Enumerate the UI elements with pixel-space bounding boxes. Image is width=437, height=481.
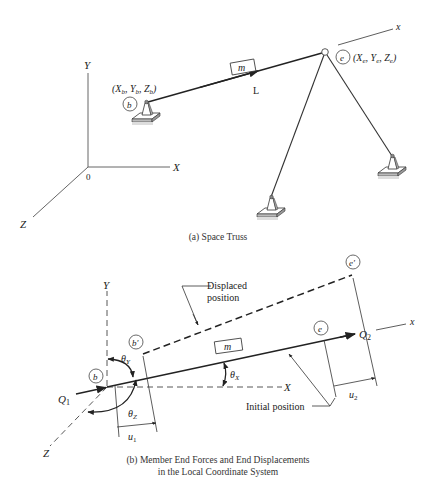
svg-text:m: m [238, 62, 245, 73]
local-x-axis-a [338, 29, 393, 45]
joint-b-label: b [127, 100, 132, 110]
q1-label: Q1 [58, 393, 70, 407]
u2-dimension-arrow [334, 378, 375, 386]
support-left [257, 195, 285, 220]
joint-e-prime-label: e′ [349, 258, 356, 268]
caption-b-line1: (b) Member End Forces and End Displaceme… [126, 455, 309, 466]
u2-ref-line-initial [324, 340, 336, 397]
z-axis-label-b: Z [43, 447, 50, 459]
displaced-annotation-line2: position [207, 292, 239, 303]
local-x-axis-label-a: x [395, 21, 401, 32]
support-right [378, 154, 406, 179]
joint-b-coords: (Xb, Yb, Zb) [112, 83, 157, 96]
theta-z-label: θZ [128, 408, 137, 421]
u1-ref-line-displaced [143, 356, 157, 432]
member-displaced-position [143, 275, 352, 354]
member-label-box-b: m [214, 338, 242, 354]
theta-x-label: θX [230, 369, 240, 382]
initial-leader-to-u2 [330, 398, 335, 406]
caption-a: (a) Space Truss [189, 232, 248, 243]
space-truss-figure: Y X Z 0 m L x e (Xe, Ye, Ze) b (Xb, Yb, … [0, 0, 437, 481]
joint-e-label: e [340, 53, 344, 63]
origin-label: 0 [86, 172, 91, 182]
joint-b-prime-label: b′ [132, 338, 140, 348]
y-axis-label-b: Y [103, 279, 111, 291]
figure-b-local-coordinates: Y X Z x m b b′ e e′ Q1 Q2 u1 [43, 255, 415, 477]
svg-text:m: m [224, 341, 231, 352]
member-direction-arrow [200, 71, 258, 87]
initial-annotation: Initial position [246, 401, 305, 412]
q2-arrow [340, 334, 355, 337]
joint-e-label-b: e [318, 324, 322, 334]
local-x-axis-b [376, 324, 406, 330]
figure-a-space-truss: Y X Z 0 m L x e (Xe, Ye, Ze) b (Xb, Yb, … [20, 21, 406, 243]
u1-ref-line-initial [115, 386, 119, 437]
joint-b-label-b: b [93, 372, 98, 382]
local-x-axis-label-b: x [409, 316, 415, 327]
x-axis-label-b: X [283, 381, 292, 393]
initial-leader-arrow [289, 354, 330, 406]
member-left-leg [271, 55, 324, 197]
u2-ref-line-displaced [353, 278, 377, 386]
u1-label: u1 [128, 431, 137, 444]
theta-x-arc [223, 363, 226, 386]
z-axis [33, 167, 88, 217]
joint-e-node [322, 49, 329, 56]
y-axis-label: Y [84, 59, 92, 71]
z-axis-label: Z [20, 218, 27, 230]
x-axis-label: X [172, 161, 181, 173]
displaced-annotation-line1: Displaced [207, 280, 247, 291]
u1-dimension-arrow [117, 423, 156, 427]
theta-y-label: θY [121, 353, 131, 366]
displaced-leader-arrow [193, 314, 198, 325]
member-direction-label: L [253, 85, 259, 96]
q1-arrow [76, 388, 106, 395]
caption-b-line2: in the Local Coordinate System [158, 467, 279, 477]
member-right-leg [327, 55, 392, 156]
u2-label: u2 [349, 389, 358, 402]
joint-e-coords: (Xe, Ye, Ze) [353, 52, 397, 65]
global-axes-a: Y X Z 0 [20, 59, 181, 230]
